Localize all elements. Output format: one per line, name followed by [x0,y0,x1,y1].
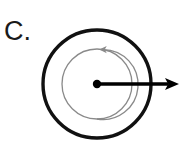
center-dot [93,80,101,88]
figure-panel-c: C. [0,0,188,144]
rotating-disk-diagram [0,0,188,144]
